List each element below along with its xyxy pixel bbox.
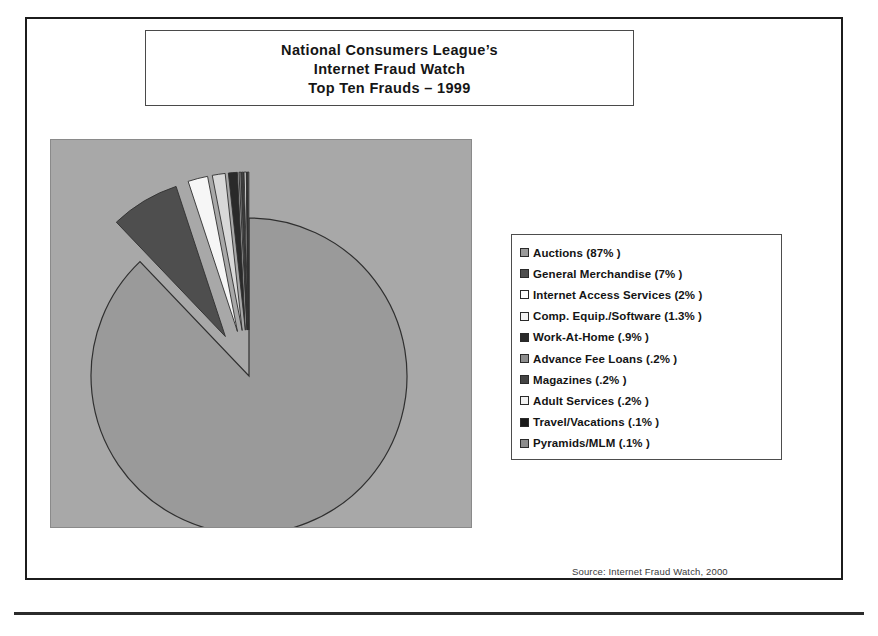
legend-item-label: Adult Services (.2% ) [533, 395, 649, 407]
legend-item[interactable]: Internet Access Services (2% ) [520, 284, 775, 305]
legend-item-label: Advance Fee Loans (.2% ) [533, 353, 677, 365]
legend-item-label: Travel/Vacations (.1% ) [533, 416, 659, 428]
legend-item[interactable]: Advance Fee Loans (.2% ) [520, 348, 775, 369]
legend-item[interactable]: Travel/Vacations (.1% ) [520, 412, 775, 433]
page-divider-rule [14, 612, 864, 615]
pie-chart-svg [51, 140, 471, 527]
legend-item-label: Auctions (87% ) [533, 247, 621, 259]
legend-item[interactable]: Comp. Equip./Software (1.3% ) [520, 306, 775, 327]
legend-swatch-icon [520, 396, 529, 405]
legend-item[interactable]: Work-At-Home (.9% ) [520, 327, 775, 348]
legend-swatch-icon [520, 290, 529, 299]
legend-swatch-icon [520, 439, 529, 448]
legend-swatch-icon [520, 375, 529, 384]
slide-frame: National Consumers League’s Internet Fra… [25, 17, 843, 580]
legend-item-label: Pyramids/MLM (.1% ) [533, 437, 650, 449]
source-note: Source: Internet Fraud Watch, 2000 [572, 566, 728, 577]
legend-item[interactable]: General Merchandise (7% ) [520, 263, 775, 284]
legend-item[interactable]: Adult Services (.2% ) [520, 390, 775, 411]
legend-item-label: Internet Access Services (2% ) [533, 289, 702, 301]
legend-item-label: Work-At-Home (.9% ) [533, 331, 649, 343]
legend-swatch-icon [520, 248, 529, 257]
chart-legend: Auctions (87% )General Merchandise (7% )… [511, 234, 782, 460]
legend-swatch-icon [520, 333, 529, 342]
legend-item[interactable]: Auctions (87% ) [520, 242, 775, 263]
chart-title-line-2: Internet Fraud Watch [314, 60, 465, 79]
chart-title-line-1: National Consumers League’s [281, 41, 498, 60]
legend-item[interactable]: Pyramids/MLM (.1% ) [520, 433, 775, 454]
legend-swatch-icon [520, 354, 529, 363]
chart-title-line-3: Top Ten Frauds – 1999 [308, 79, 470, 98]
legend-item[interactable]: Magazines (.2% ) [520, 369, 775, 390]
chart-title-box: National Consumers League’s Internet Fra… [145, 30, 634, 106]
legend-swatch-icon [520, 312, 529, 321]
legend-swatch-icon [520, 269, 529, 278]
legend-item-label: Magazines (.2% ) [533, 374, 627, 386]
legend-swatch-icon [520, 418, 529, 427]
legend-item-label: Comp. Equip./Software (1.3% ) [533, 310, 702, 322]
pie-chart-plot-area [50, 139, 472, 528]
legend-item-label: General Merchandise (7% ) [533, 268, 683, 280]
